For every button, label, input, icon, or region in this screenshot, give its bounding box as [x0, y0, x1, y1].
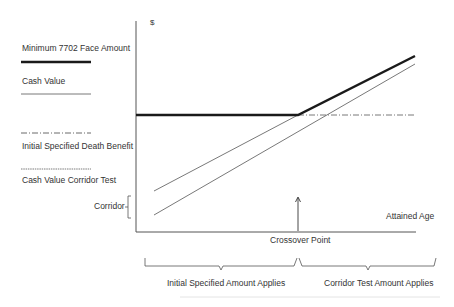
corridor-bracket [125, 196, 131, 218]
min-7702-face-amount-line [136, 56, 415, 115]
cash-value-line [154, 64, 415, 215]
diagram-canvas [0, 0, 454, 307]
initial-specified-amount-brace [145, 258, 297, 270]
cash-value-corridor-test-line [154, 115, 298, 191]
corridor-test-amount-brace [299, 258, 436, 270]
